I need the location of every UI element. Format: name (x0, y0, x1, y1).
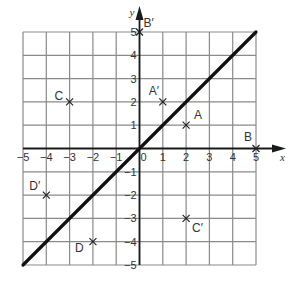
x-tick-label: −5 (17, 151, 30, 163)
y-tick-label: −4 (124, 236, 137, 248)
y-tick-label: −5 (124, 259, 137, 271)
point-label: D′ (29, 179, 41, 193)
x-tick-label: −2 (87, 151, 100, 163)
x-tick-label: 0 (140, 151, 146, 163)
point-marker-c: C (55, 89, 74, 106)
x-tick-label: 3 (206, 151, 212, 163)
x-tick-label: −4 (40, 151, 53, 163)
x-tick-label: −3 (63, 151, 76, 163)
y-axis-label: y (129, 6, 135, 18)
x-tick-label: 2 (183, 151, 189, 163)
y-tick-label: −3 (124, 212, 137, 224)
x-tick-label: 1 (160, 151, 166, 163)
y-tick-label: 2 (130, 96, 136, 108)
y-tick-label: 3 (130, 73, 136, 85)
y-tick-label: −1 (124, 166, 137, 178)
point-label: D (75, 241, 84, 255)
y-tick-label: 1 (130, 119, 136, 131)
y-axis-arrow-icon (136, 6, 144, 20)
point-label: C′ (192, 221, 204, 235)
x-tick-label: −1 (110, 151, 123, 163)
point-label: A (194, 108, 202, 122)
y-tick-label: 5 (130, 26, 136, 38)
x-tick-label: 4 (230, 151, 236, 163)
y-tick-label: −2 (124, 189, 137, 201)
point-label: C (55, 89, 64, 103)
point-label: A′ (149, 84, 160, 98)
y-tick-label: 4 (130, 49, 136, 61)
coordinate-grid: xy −5−4−3−2−101234554321−1−2−3−4−5 AA′BB… (0, 0, 293, 281)
x-axis-label: x (279, 151, 285, 163)
x-tick-label: 5 (253, 151, 259, 163)
point-label: B′ (144, 16, 155, 30)
point-label: B (244, 130, 252, 144)
